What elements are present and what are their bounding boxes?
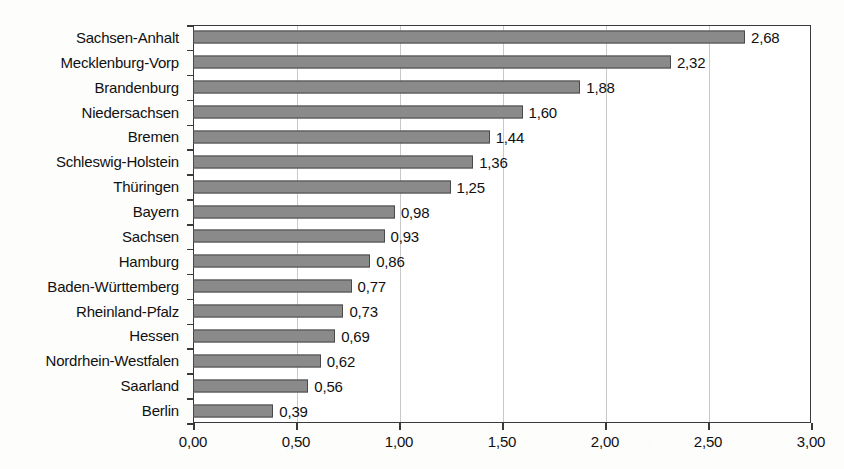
bar [193, 56, 671, 69]
bar-value-label: 0,39 [279, 403, 307, 418]
category-label: Niedersachsen [0, 100, 186, 125]
category-label: Rheinland-Pfalz [0, 299, 186, 324]
bar [193, 280, 352, 293]
bar [193, 329, 335, 342]
bar-group: 0,77 [193, 280, 386, 293]
bar-value-label: 0,93 [391, 229, 419, 244]
bar-row: 0,73 [193, 299, 811, 324]
bar-value-label: 1,88 [586, 80, 614, 95]
category-label: Hamburg [0, 249, 186, 274]
bar-group: 1,25 [193, 180, 485, 193]
category-label: Brandenburg [0, 75, 186, 100]
bar [193, 205, 395, 218]
bar-group: 0,39 [193, 404, 308, 417]
bar-value-label: 1,44 [496, 129, 524, 144]
bar [193, 305, 343, 318]
x-axis-tick-label: 1,50 [488, 433, 516, 450]
bar-group: 1,44 [193, 130, 524, 143]
bar-group: 1,36 [193, 155, 508, 168]
category-label: Schleswig-Holstein [0, 149, 186, 174]
bar-group: 2,32 [193, 56, 705, 69]
x-axis-tick-label: 2,50 [694, 433, 722, 450]
category-label: Saarland [0, 373, 186, 398]
category-label: Bremen [0, 125, 186, 150]
bar [193, 255, 370, 268]
category-label: Hessen [0, 324, 186, 349]
bar-row: 0,62 [193, 348, 811, 373]
category-label: Nordrhein-Westfalen [0, 348, 186, 373]
bar [193, 230, 385, 243]
bar-value-label: 0,86 [376, 254, 404, 269]
bar-value-label: 0,69 [341, 328, 369, 343]
bar-chart: Sachsen-AnhaltMecklenburg-VorpBrandenbur… [0, 0, 844, 469]
bar-row: 1,25 [193, 174, 811, 199]
bar-row: 0,98 [193, 199, 811, 224]
bar-value-label: 0,77 [358, 279, 386, 294]
bar-group: 0,73 [193, 305, 378, 318]
bar-row: 1,44 [193, 125, 811, 150]
category-label: Thüringen [0, 174, 186, 199]
bar [193, 81, 580, 94]
bar-group: 1,88 [193, 81, 615, 94]
x-axis-tick-label: 1,00 [385, 433, 413, 450]
x-axis-tick-label: 2,00 [591, 433, 619, 450]
bar-value-label: 1,60 [529, 105, 557, 120]
bar-value-label: 2,32 [677, 55, 705, 70]
bar-value-label: 0,73 [349, 304, 377, 319]
bar-group: 0,86 [193, 255, 405, 268]
bar-group: 0,62 [193, 354, 355, 367]
category-label: Berlin [0, 398, 186, 423]
x-axis-tick [193, 423, 195, 430]
bar [193, 180, 451, 193]
bar-row: 1,60 [193, 100, 811, 125]
bar-row: 0,69 [193, 324, 811, 349]
bar-value-label: 2,68 [751, 30, 779, 45]
category-label: Mecklenburg-Vorp [0, 50, 186, 75]
category-axis-labels: Sachsen-AnhaltMecklenburg-VorpBrandenbur… [0, 25, 186, 423]
bar-row: 0,77 [193, 274, 811, 299]
bar [193, 155, 473, 168]
bar-row: 2,32 [193, 50, 811, 75]
bar-group: 1,60 [193, 106, 557, 119]
category-label: Bayern [0, 199, 186, 224]
bar-row: 0,93 [193, 224, 811, 249]
bar-row: 0,39 [193, 398, 811, 423]
bar [193, 379, 308, 392]
x-axis-tick [296, 423, 298, 430]
x-axis-tick [708, 423, 710, 430]
bar [193, 130, 490, 143]
bar-group: 2,68 [193, 31, 779, 44]
bar-row: 0,56 [193, 373, 811, 398]
category-label: Sachsen-Anhalt [0, 25, 186, 50]
bar [193, 354, 321, 367]
bar [193, 106, 523, 119]
bar-value-label: 1,36 [479, 154, 507, 169]
bar-value-label: 1,25 [457, 179, 485, 194]
bar-group: 0,56 [193, 379, 343, 392]
x-axis-tick [605, 423, 607, 430]
x-axis-tick-label: 0,00 [179, 433, 207, 450]
bar-group: 0,93 [193, 230, 419, 243]
bar-value-label: 0,98 [401, 204, 429, 219]
bar-series: 2,682,321,881,601,441,361,250,980,930,86… [193, 25, 811, 423]
bar [193, 404, 273, 417]
category-label: Baden-Württemberg [0, 274, 186, 299]
x-axis-tick [502, 423, 504, 430]
bar-value-label: 0,56 [314, 378, 342, 393]
bar-value-label: 0,62 [327, 353, 355, 368]
bar-row: 0,86 [193, 249, 811, 274]
x-axis-tick-label: 3,00 [797, 433, 825, 450]
bar-row: 2,68 [193, 25, 811, 50]
bar-group: 0,69 [193, 329, 370, 342]
x-axis-tick-label: 0,50 [282, 433, 310, 450]
x-axis-tick [399, 423, 401, 430]
bar [193, 31, 745, 44]
x-axis-tick [811, 423, 813, 430]
category-label: Sachsen [0, 224, 186, 249]
bar-row: 1,88 [193, 75, 811, 100]
bar-row: 1,36 [193, 149, 811, 174]
bar-group: 0,98 [193, 205, 429, 218]
